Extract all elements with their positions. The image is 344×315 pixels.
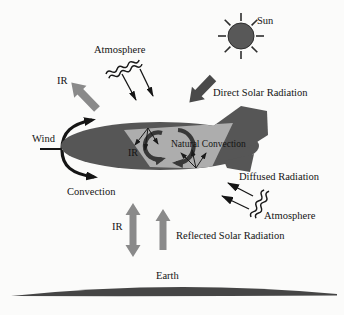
ir-upper-left-label: IR [57,75,68,87]
reflected-solar-radiation-label: Reflected Solar Radiation [176,230,284,242]
ir-ground-double-arrow [126,203,141,257]
convection-label: Convection [67,186,115,198]
ir-emission-arrow-upper-left [65,76,103,114]
diagram-graphics [0,0,344,315]
sun-label: Sun [257,15,273,27]
natural-convection-label: Natural Convection [171,139,246,149]
ir-hull-label: IR [128,147,138,159]
atmosphere-top-label: Atmosphere [94,44,145,56]
ir-ground-label: IR [112,221,123,233]
diffused-radiation-arrows [222,183,253,209]
atmosphere-right-label: Atmosphere [264,210,315,222]
direct-solar-radiation-label: Direct Solar Radiation [213,87,307,99]
earth-label: Earth [156,270,179,282]
atmosphere-ir-arrows-top [122,69,153,100]
wind-label: Wind [32,133,55,145]
airship-thermal-diagram: Sun Atmosphere IR Wind Convection Direct… [0,0,344,315]
diffused-radiation-label: Diffused Radiation [239,171,319,183]
earth-surface [11,287,337,296]
reflected-solar-radiation-arrow [156,209,171,250]
